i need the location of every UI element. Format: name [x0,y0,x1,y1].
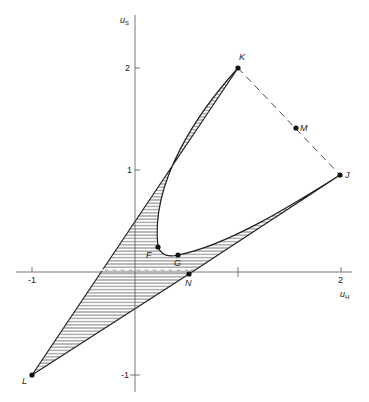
label-m: M [300,123,308,133]
dashed-line-kj [238,68,340,175]
point-n [186,271,191,276]
label-f: F [146,250,152,260]
point-f [155,244,160,249]
payoff-region-diagram: -1 2 2 1 -1 uS uH K M J F G N L [0,0,369,402]
y-axis-label: uS [120,15,129,26]
point-k [235,65,240,70]
y-tick-2: 2 [125,63,130,73]
label-j: J [344,170,350,180]
x-tick-neg1: -1 [28,275,36,285]
label-l: L [22,376,27,386]
label-g: G [174,258,181,268]
label-k: K [239,52,246,62]
point-l [29,372,34,377]
x-tick-2: 2 [338,275,343,285]
hatched-region [32,68,340,375]
y-tick-neg1: -1 [121,370,129,380]
x-axis-label: uH [340,289,349,300]
point-m [293,125,298,130]
label-n: N [185,278,192,288]
point-g [175,252,180,257]
point-j [337,172,342,177]
y-tick-1: 1 [127,165,132,175]
